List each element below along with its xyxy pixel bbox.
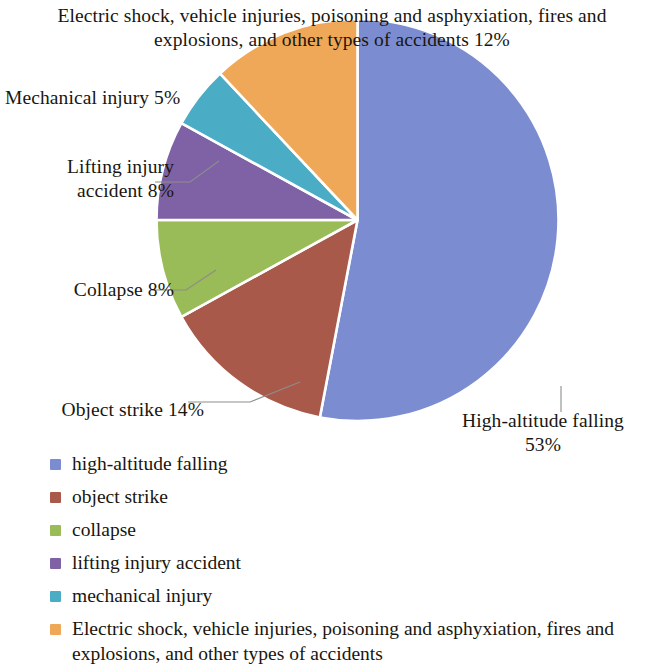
legend-item-label: collapse (72, 518, 136, 543)
chart-legend: high-altitude falling object strike coll… (50, 452, 650, 668)
legend-item-electric-shock-other[interactable]: Electric shock, vehicle injuries, poison… (50, 617, 650, 666)
slice-label-lifting-injury-accident: Lifting injury accident 8% (14, 155, 174, 203)
slice-label-mechanical-injury: Mechanical injury 5% (5, 86, 260, 110)
legend-item-collapse[interactable]: collapse (50, 518, 650, 543)
legend-item-label: high-altitude falling (72, 452, 227, 477)
legend-item-mechanical-injury[interactable]: mechanical injury (50, 584, 650, 609)
legend-item-lifting-injury-accident[interactable]: lifting injury accident (50, 551, 650, 576)
legend-swatch-icon (50, 492, 61, 503)
legend-item-label: mechanical injury (72, 584, 212, 609)
slice-label-collapse: Collapse 8% (14, 278, 174, 302)
legend-swatch-icon (50, 525, 61, 536)
slice-label-object-strike: Object strike 14% (4, 398, 204, 422)
legend-item-label: Electric shock, vehicle injuries, poison… (72, 617, 637, 666)
slice-label-high-altitude-falling: High-altitude falling 53% (448, 409, 638, 457)
legend-item-high-altitude-falling[interactable]: high-altitude falling (50, 452, 650, 477)
pie-slices (157, 19, 559, 421)
legend-swatch-icon (50, 591, 61, 602)
legend-swatch-icon (50, 558, 61, 569)
legend-swatch-icon (50, 459, 61, 470)
legend-item-object-strike[interactable]: object strike (50, 485, 650, 510)
legend-item-label: lifting injury accident (72, 551, 241, 576)
slice-label-electric-shock-other: Electric shock, vehicle injuries, poison… (52, 4, 612, 52)
legend-item-label: object strike (72, 485, 168, 510)
legend-swatch-icon (50, 624, 61, 635)
